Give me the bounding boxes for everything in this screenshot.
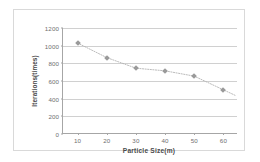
x-axis-tick-label: 20 [103,137,110,144]
y-axis-tick-label: 800 [48,60,59,67]
series-line [63,28,238,134]
chart-frame: Iterations(times) Particle Size(m) 02004… [13,9,245,151]
y-axis-tick-label: 600 [48,78,59,85]
x-axis-tick-label: 40 [162,137,169,144]
x-axis-tick-label: 50 [191,137,198,144]
y-axis-tick-label: 0 [55,131,59,138]
x-axis-tick-label: 60 [220,137,227,144]
chart-screenshot: Iterations(times) Particle Size(m) 02004… [0,0,260,162]
plot-area: 020040060080010001200 102030405060 [62,28,237,134]
y-axis-title: Iterations(times) [31,55,38,106]
y-axis-tick-label: 400 [48,95,59,102]
y-axis-tick-label: 1200 [45,25,59,32]
y-axis-tick-label: 1000 [45,42,59,49]
x-axis-tick-label: 30 [132,137,139,144]
x-axis-title: Particle Size(m) [123,147,175,154]
x-axis-tick-label: 10 [74,137,81,144]
y-axis-tick-label: 200 [48,113,59,120]
